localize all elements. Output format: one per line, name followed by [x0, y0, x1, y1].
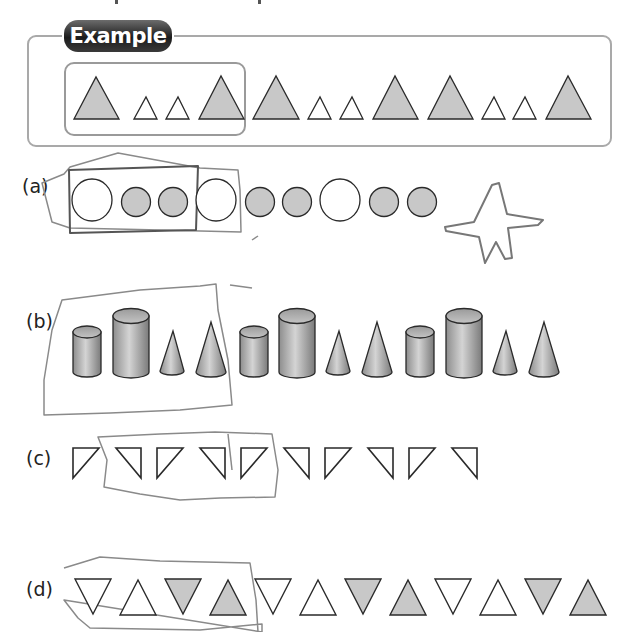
- white-up-triangle: [120, 580, 156, 615]
- gray-up-triangle: [570, 580, 606, 615]
- gray-up-triangle: [390, 580, 426, 615]
- white-down-triangle: [75, 579, 111, 614]
- white-down-triangle: [435, 579, 471, 614]
- white-up-triangle: [480, 580, 516, 615]
- gray-down-triangle: [165, 579, 201, 614]
- gray-up-triangle: [210, 580, 246, 615]
- row-d-shapes: [0, 0, 628, 632]
- white-down-triangle: [255, 579, 291, 614]
- gray-down-triangle: [345, 579, 381, 614]
- gray-down-triangle: [525, 579, 561, 614]
- white-up-triangle: [300, 580, 336, 615]
